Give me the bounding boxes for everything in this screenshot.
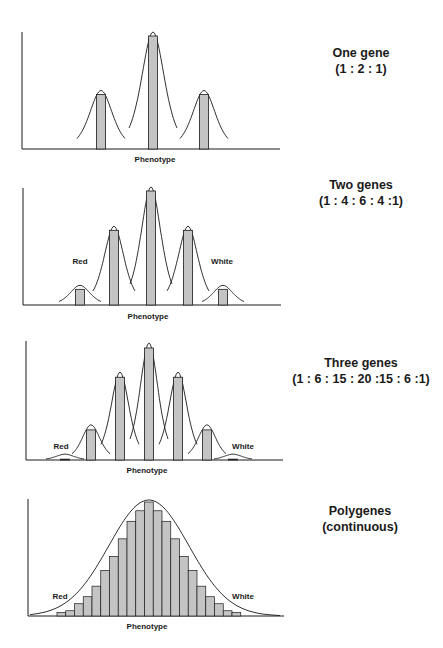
label-red-polygenes: Red — [52, 592, 67, 601]
title-three-genes-ratio: (1 : 6 : 15 : 20 :15 : 6 :1) — [281, 371, 441, 387]
xlabel-two-genes: Phenotype — [128, 312, 169, 321]
bar — [184, 230, 193, 305]
bar — [76, 289, 85, 305]
histogram-bar — [171, 539, 180, 616]
histogram-bar — [110, 556, 119, 616]
histogram-bar — [83, 597, 92, 616]
title-three-genes: Three genes (1 : 6 : 15 : 20 :15 : 6 :1) — [281, 355, 441, 387]
bar — [97, 95, 106, 150]
bar — [174, 377, 183, 460]
bar — [203, 430, 212, 460]
label-red-three-genes: Red — [53, 442, 68, 451]
histogram-bar — [215, 604, 224, 616]
histogram-bar — [153, 511, 162, 616]
histogram-bar — [197, 586, 206, 616]
title-one-gene: One gene (1 : 2 : 1) — [281, 45, 441, 77]
histogram-bar — [136, 511, 145, 616]
histogram-bar — [92, 586, 101, 616]
bar — [149, 36, 158, 149]
label-red-two-genes: Red — [72, 257, 87, 266]
histogram-bar — [75, 604, 84, 616]
title-two-genes-name: Two genes — [281, 177, 441, 193]
distribution-curve — [214, 454, 252, 459]
histogram-bar — [145, 502, 154, 616]
title-one-gene-name: One gene — [281, 45, 441, 61]
histogram-bar — [223, 611, 232, 616]
title-one-gene-ratio: (1 : 2 : 1) — [281, 61, 441, 77]
bar — [147, 191, 156, 305]
histogram-bar — [188, 570, 197, 616]
xlabel-one-gene: Phenotype — [135, 155, 176, 164]
title-polygenes-name: Polygenes — [280, 503, 440, 519]
bar — [229, 459, 238, 460]
label-white-two-genes: White — [211, 257, 233, 266]
chart-two-genes — [23, 187, 281, 305]
bar — [110, 230, 119, 305]
histogram-bar — [206, 597, 215, 616]
title-polygenes: Polygenes (continuous) — [280, 503, 440, 535]
genetic-ratio-charts: Phenotype Phenotype Phenotype Phenotype … — [0, 0, 443, 648]
title-polygenes-ratio: (continuous) — [280, 519, 440, 535]
histogram-bar — [101, 570, 110, 616]
title-three-genes-name: Three genes — [281, 355, 441, 371]
histogram-bar — [118, 539, 127, 616]
label-white-three-genes: White — [232, 442, 254, 451]
histogram-bar — [127, 521, 136, 616]
bar — [61, 459, 70, 460]
title-two-genes-ratio: (1 : 4 : 6 : 4 :1) — [281, 193, 441, 209]
title-two-genes: Two genes (1 : 4 : 6 : 4 :1) — [281, 177, 441, 209]
bar — [116, 377, 125, 460]
histogram-bar — [232, 612, 241, 616]
bar — [87, 430, 96, 460]
histogram-bar — [57, 612, 66, 616]
distribution-curve — [46, 454, 84, 459]
chart-one-gene — [22, 32, 280, 149]
label-white-polygenes: White — [232, 592, 254, 601]
bar — [200, 95, 209, 150]
histogram-bar — [162, 521, 171, 616]
histogram-bar — [180, 556, 189, 616]
xlabel-polygenes: Phenotype — [127, 622, 168, 631]
bar — [219, 289, 228, 305]
xlabel-three-genes: Phenotype — [127, 466, 168, 475]
bar — [145, 348, 154, 460]
histogram-bar — [66, 611, 75, 616]
